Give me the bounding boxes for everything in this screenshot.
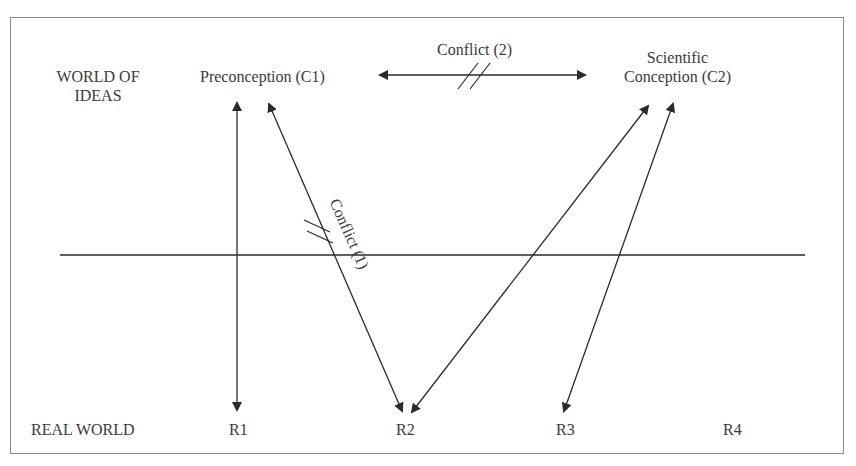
- conflict2-slash-2: [470, 63, 490, 89]
- c2-line2: Conception (C2): [605, 67, 750, 86]
- world-of-ideas-line2: IDEAS: [48, 86, 148, 105]
- conflict1-slash-2: [307, 231, 333, 243]
- arrow-c2-r3: [564, 104, 673, 411]
- conflict2-slash-1: [458, 63, 478, 89]
- real-item-r4: R4: [723, 420, 742, 439]
- arrow-c2-r2: [412, 106, 648, 412]
- world-of-ideas-line1: WORLD OF: [48, 67, 148, 86]
- real-item-r1: R1: [229, 420, 248, 439]
- real-item-r3: R3: [556, 420, 575, 439]
- c2-line1: Scientific: [605, 48, 750, 67]
- arrow-c1-r2: [269, 104, 402, 411]
- preconception-c1: Preconception (C1): [200, 67, 325, 86]
- scientific-conception-c2: Scientific Conception (C2): [605, 48, 750, 86]
- real-world-label: REAL WORLD: [31, 420, 135, 439]
- conflict2-label: Conflict (2): [437, 40, 512, 59]
- real-item-r2: R2: [396, 420, 415, 439]
- world-of-ideas-label: WORLD OF IDEAS: [48, 67, 148, 105]
- conflict1-slash-1: [304, 220, 330, 232]
